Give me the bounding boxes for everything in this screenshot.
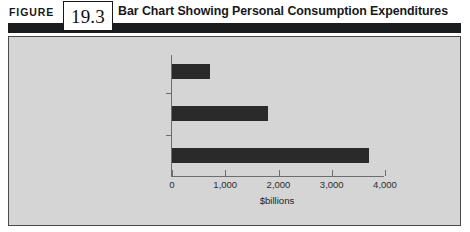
x-axis-tick-label: 3,000 — [320, 179, 344, 190]
figure-number: 19.3 — [71, 7, 105, 26]
figure-number-box: 19.3 — [63, 1, 113, 31]
x-axis-line — [171, 176, 384, 177]
x-axis-tick — [332, 170, 333, 176]
bar — [172, 148, 369, 163]
x-axis-title: $billions — [260, 195, 295, 206]
x-axis-tick-label: 4,000 — [373, 179, 397, 190]
figure-header: FIGURE 19.3 Bar Chart Showing Personal C… — [0, 0, 470, 36]
x-axis-tick-label: 2,000 — [267, 179, 291, 190]
bar — [172, 106, 268, 121]
x-axis-tick — [172, 170, 173, 176]
figure-label: FIGURE — [9, 6, 54, 18]
bar — [172, 64, 210, 79]
x-axis-tick-label: 0 — [169, 179, 174, 190]
figure-title: Bar Chart Showing Personal Consumption E… — [118, 4, 448, 18]
x-axis-tick — [385, 170, 386, 176]
plot-area: $billions 01,0002,0003,0004,000Durable g… — [9, 37, 460, 225]
y-axis-tick — [166, 135, 171, 136]
figure-container: FIGURE 19.3 Bar Chart Showing Personal C… — [0, 0, 470, 232]
x-axis-tick — [225, 170, 226, 176]
chart-panel: $billions 01,0002,0003,0004,000Durable g… — [8, 36, 461, 226]
y-axis-tick — [166, 93, 171, 94]
x-axis-tick — [279, 170, 280, 176]
x-axis-tick-label: 1,000 — [213, 179, 237, 190]
